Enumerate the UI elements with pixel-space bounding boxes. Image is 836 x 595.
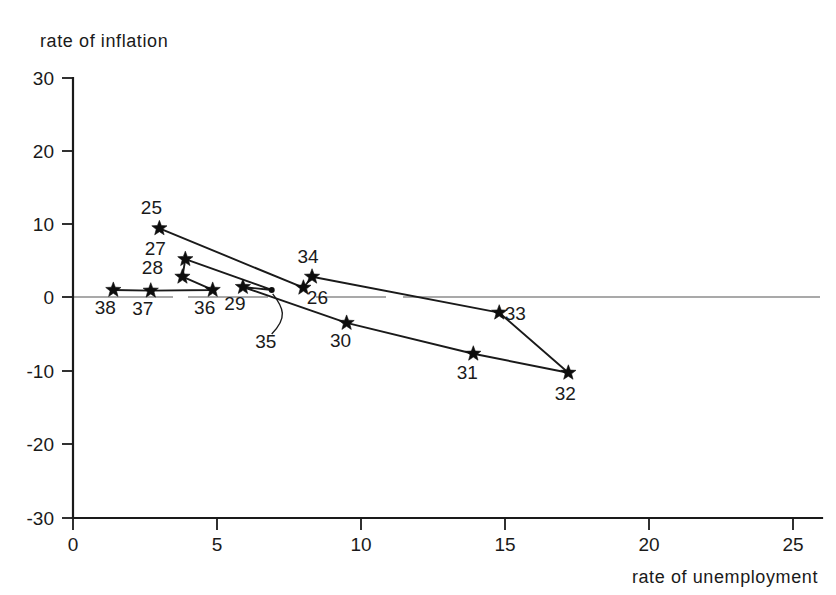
x-tick-label: 25 <box>782 534 803 555</box>
x-tick-labels: 0 5 10 15 20 25 <box>68 534 804 555</box>
y-axis <box>62 78 73 518</box>
data-point-marker-35[interactable] <box>269 287 275 293</box>
data-point-marker-34[interactable] <box>304 269 319 283</box>
data-point-label-31: 31 <box>457 362 478 383</box>
y-tick-label: 30 <box>33 68 54 89</box>
data-point-marker-25[interactable] <box>152 220 167 234</box>
y-tick-label: -20 <box>27 434 54 455</box>
inflation-unemployment-chart: 30 20 10 0 -10 -20 -30 0 5 10 15 20 25 r… <box>0 0 836 595</box>
y-tick-label: 20 <box>33 141 54 162</box>
x-tick-label: 10 <box>350 534 371 555</box>
series-path <box>113 228 568 372</box>
x-tick-label: 15 <box>494 534 515 555</box>
x-tick-label: 20 <box>638 534 659 555</box>
y-tick-label: -10 <box>27 361 54 382</box>
data-point-label-33: 33 <box>505 303 526 324</box>
chart-svg: 30 20 10 0 -10 -20 -30 0 5 10 15 20 25 r… <box>0 0 836 595</box>
y-tick-labels: 30 20 10 0 -10 -20 -30 <box>27 68 54 529</box>
data-point-label-32: 32 <box>555 383 576 404</box>
data-point-label-38: 38 <box>95 297 116 318</box>
series-layer: 2526272829303132333435363738 <box>95 197 576 403</box>
data-point-marker-28[interactable] <box>175 269 190 283</box>
data-point-label-36: 36 <box>194 297 215 318</box>
y-tick-label: 0 <box>43 287 54 308</box>
data-point-label-37: 37 <box>132 298 153 319</box>
x-tick-label: 5 <box>212 534 223 555</box>
x-tick-label: 0 <box>68 534 79 555</box>
x-axis <box>73 518 822 530</box>
data-point-label-28: 28 <box>142 257 163 278</box>
data-point-label-29: 29 <box>224 293 245 314</box>
data-point-marker-31[interactable] <box>466 346 481 360</box>
x-axis-title: rate of unemployment <box>632 567 818 587</box>
data-point-label-26: 26 <box>307 287 328 308</box>
data-point-label-30: 30 <box>330 330 351 351</box>
data-point-label-34: 34 <box>297 246 319 267</box>
y-axis-title: rate of inflation <box>40 31 168 51</box>
y-tick-label: -30 <box>27 508 54 529</box>
y-tick-label: 10 <box>33 214 54 235</box>
data-point-marker-30[interactable] <box>339 315 354 329</box>
data-point-marker-37[interactable] <box>143 283 158 297</box>
data-point-marker-36[interactable] <box>205 282 220 296</box>
data-point-label-25: 25 <box>141 197 162 218</box>
data-point-label-35: 35 <box>255 331 276 352</box>
data-point-marker-38[interactable] <box>106 282 121 296</box>
